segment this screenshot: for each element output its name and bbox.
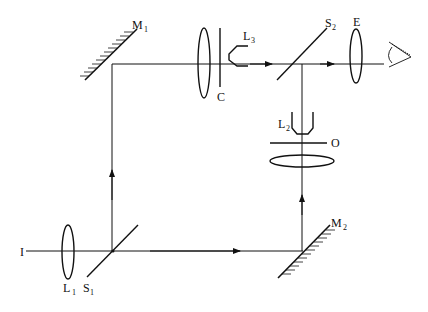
label-l3: L 3: [243, 29, 255, 45]
svg-text:1: 1: [72, 288, 76, 297]
label-c: C: [217, 90, 225, 104]
eye-icon: [389, 42, 412, 67]
eyepiece-e: [350, 29, 362, 83]
svg-text:S: S: [325, 16, 332, 30]
svg-text:2: 2: [286, 124, 290, 133]
label-m1: M 1: [132, 18, 148, 34]
svg-text:L: L: [278, 117, 285, 131]
lens-l1: [62, 225, 74, 279]
splitter-s1-point: [112, 250, 115, 253]
svg-text:2: 2: [343, 223, 347, 232]
mirror-m1: [80, 29, 137, 80]
lens-top: [198, 28, 210, 98]
optical-diagram: I L 1 S 1 M 1 M 2 L 3 C S 2 E L 2 O: [0, 0, 428, 312]
svg-text:L: L: [243, 29, 250, 43]
label-source-i: I: [20, 245, 24, 259]
label-s2: S 2: [325, 16, 336, 32]
diagram-canvas: I L 1 S 1 M 1 M 2 L 3 C S 2 E L 2 O: [0, 0, 428, 312]
objective-l3: [229, 46, 248, 66]
label-s1: S 1: [83, 281, 94, 297]
svg-text:M: M: [331, 216, 342, 230]
svg-text:M: M: [132, 18, 143, 32]
svg-text:1: 1: [144, 25, 148, 34]
svg-text:1: 1: [90, 288, 94, 297]
svg-text:2: 2: [332, 23, 336, 32]
label-e: E: [353, 15, 360, 29]
label-l1: L 1: [63, 281, 76, 297]
label-l2: L 2: [278, 117, 290, 133]
svg-text:L: L: [63, 281, 70, 295]
label-o: O: [331, 136, 340, 150]
svg-text:3: 3: [251, 36, 255, 45]
svg-text:S: S: [83, 281, 90, 295]
label-m2: M 2: [331, 216, 347, 232]
